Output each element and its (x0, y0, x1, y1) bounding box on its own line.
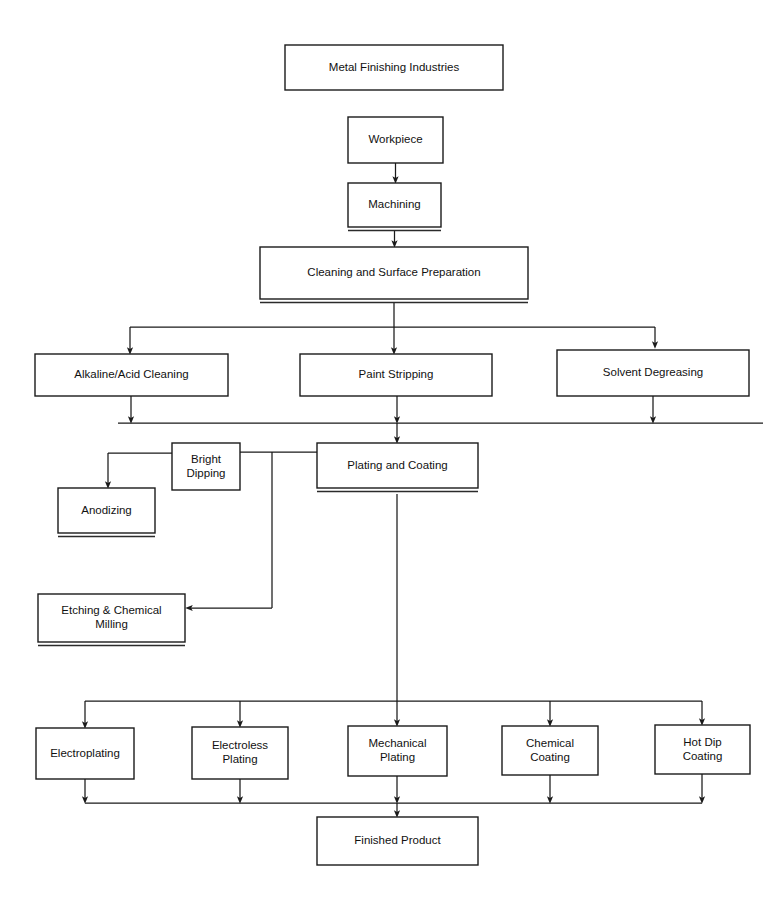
node-layer: Metal Finishing IndustriesWorkpieceMachi… (35, 45, 750, 865)
node-etching-and-chemical-milling[interactable]: Etching & ChemicalMilling (38, 594, 185, 646)
node-cleaning-and-surface-preparation[interactable]: Cleaning and Surface Preparation (260, 247, 528, 303)
flowchart-canvas: Metal Finishing IndustriesWorkpieceMachi… (0, 0, 765, 901)
node-label-bright-dipping: Dipping (187, 467, 226, 479)
node-alkaline-acid-cleaning[interactable]: Alkaline/Acid Cleaning (35, 354, 228, 396)
node-chemical-coating[interactable]: ChemicalCoating (502, 726, 598, 775)
node-label-mechanical-plating: Mechanical (368, 737, 426, 749)
node-label-electroplating: Electroplating (50, 747, 120, 759)
node-label-mechanical-plating: Plating (380, 751, 415, 763)
node-electroplating[interactable]: Electroplating (36, 728, 134, 779)
node-label-chemical-coating: Coating (530, 751, 570, 763)
node-label-workpiece: Workpiece (368, 133, 422, 145)
node-bright-dipping[interactable]: BrightDipping (172, 443, 240, 490)
node-electroless-plating[interactable]: ElectrolessPlating (192, 727, 288, 779)
node-hot-dip-coating[interactable]: Hot DipCoating (655, 725, 750, 774)
node-solvent-degreasing[interactable]: Solvent Degreasing (557, 350, 749, 396)
node-label-anodizing: Anodizing (81, 504, 132, 516)
node-finished-product[interactable]: Finished Product (317, 817, 478, 865)
node-label-metal-finishing-industries: Metal Finishing Industries (329, 61, 460, 73)
node-label-paint-stripping: Paint Stripping (359, 368, 434, 380)
node-metal-finishing-industries[interactable]: Metal Finishing Industries (285, 45, 503, 90)
node-label-machining: Machining (368, 198, 420, 210)
flowchart-svg: Metal Finishing IndustriesWorkpieceMachi… (0, 0, 765, 901)
node-label-plating-and-coating: Plating and Coating (347, 459, 447, 471)
node-label-etching-and-chemical-milling: Milling (95, 618, 128, 630)
node-label-hot-dip-coating: Hot Dip (683, 736, 721, 748)
node-label-solvent-degreasing: Solvent Degreasing (603, 366, 703, 378)
node-label-etching-and-chemical-milling: Etching & Chemical (61, 604, 161, 616)
node-label-chemical-coating: Chemical (526, 737, 574, 749)
node-plating-and-coating[interactable]: Plating and Coating (317, 443, 478, 492)
node-workpiece[interactable]: Workpiece (348, 117, 443, 163)
node-label-hot-dip-coating: Coating (683, 750, 723, 762)
node-label-electroless-plating: Plating (222, 753, 257, 765)
node-anodizing[interactable]: Anodizing (58, 488, 155, 537)
node-label-electroless-plating: Electroless (212, 739, 268, 751)
node-label-cleaning-and-surface-preparation: Cleaning and Surface Preparation (307, 266, 480, 278)
node-paint-stripping[interactable]: Paint Stripping (300, 354, 492, 396)
node-machining[interactable]: Machining (348, 183, 441, 231)
node-mechanical-plating[interactable]: MechanicalPlating (348, 726, 447, 776)
node-label-alkaline-acid-cleaning: Alkaline/Acid Cleaning (74, 368, 188, 380)
node-label-bright-dipping: Bright (191, 453, 222, 465)
node-label-finished-product: Finished Product (354, 834, 441, 846)
